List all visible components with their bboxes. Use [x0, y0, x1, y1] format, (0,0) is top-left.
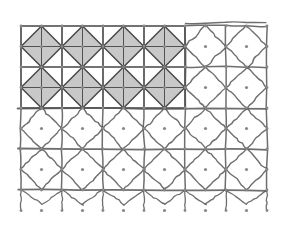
tiling-diagram	[0, 0, 287, 229]
